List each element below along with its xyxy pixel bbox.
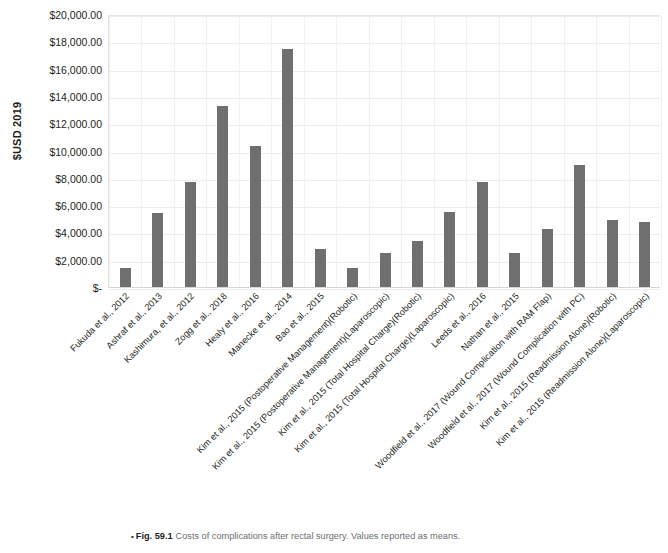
figure-caption: •Fig. 59.1Costs of complications after r… xyxy=(131,530,651,543)
bar xyxy=(444,212,455,288)
gridline-vertical xyxy=(661,16,662,288)
y-axis-tick-label: $4,000.00 xyxy=(14,228,102,239)
y-axis-tick-labels: $-$2,000.00$4,000.00$6,000.00$8,000.00$1… xyxy=(14,10,102,294)
plot-area xyxy=(108,15,660,288)
y-axis-tick-label: $12,000.00 xyxy=(14,119,102,130)
bar xyxy=(282,49,293,288)
bar xyxy=(347,268,358,289)
x-axis-tick-labels: Fukuda et al., 2012Ashraf et al., 2013Ka… xyxy=(0,291,668,516)
bar xyxy=(607,220,618,288)
y-axis-tick-label: $6,000.00 xyxy=(14,201,102,212)
bar xyxy=(542,229,553,288)
x-axis-baseline xyxy=(109,287,660,288)
y-axis-tick-label: $14,000.00 xyxy=(14,92,102,103)
gridline-horizontal xyxy=(109,289,660,290)
figure-container: $USD 2019 $-$2,000.00$4,000.00$6,000.00$… xyxy=(0,0,668,553)
bar xyxy=(185,182,196,288)
y-axis-tick-label: $2,000.00 xyxy=(14,256,102,267)
bar xyxy=(574,165,585,288)
bar-series xyxy=(109,16,660,288)
caption-bullet-icon: • xyxy=(131,532,134,541)
bar xyxy=(509,253,520,288)
bar xyxy=(152,213,163,288)
bar xyxy=(315,249,326,288)
y-axis-tick-label: $18,000.00 xyxy=(14,37,102,48)
y-axis-tick-label: $10,000.00 xyxy=(14,147,102,158)
bar xyxy=(217,106,228,288)
y-axis-tick-label: $8,000.00 xyxy=(14,174,102,185)
caption-figure-number: Fig. 59.1 xyxy=(136,531,173,541)
bar xyxy=(380,253,391,289)
bar xyxy=(412,241,423,288)
bar xyxy=(120,268,131,289)
bar xyxy=(250,146,261,288)
bar xyxy=(639,222,650,288)
bar xyxy=(477,182,488,288)
y-axis-tick-label: $16,000.00 xyxy=(14,65,102,76)
caption-text: Costs of complications after rectal surg… xyxy=(176,531,461,541)
y-axis-tick-label: $20,000.00 xyxy=(14,10,102,21)
